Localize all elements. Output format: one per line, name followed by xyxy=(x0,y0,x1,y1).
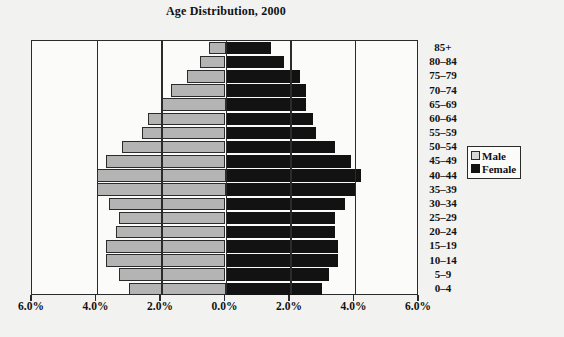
bar-rows xyxy=(32,41,417,294)
female-swatch-icon xyxy=(471,164,480,173)
bar-male-60-64 xyxy=(148,113,225,125)
bar-row xyxy=(32,69,417,83)
legend-label-male: Male xyxy=(482,150,506,162)
x-tick-label-5: 4.0% xyxy=(341,300,367,312)
gridline-pos0 xyxy=(226,41,228,294)
bar-female-40-44 xyxy=(226,169,361,181)
age-label-50-54: 50–54 xyxy=(420,139,466,153)
bar-female-20-24 xyxy=(226,226,336,238)
bar-female-60-64 xyxy=(226,113,313,125)
legend-item-male: Male xyxy=(471,149,516,162)
legend-item-female: Female xyxy=(471,162,516,175)
bar-female-0-4 xyxy=(226,283,323,295)
bar-male-10-14 xyxy=(106,254,225,266)
bar-male-75-79 xyxy=(187,70,226,82)
bar-female-30-34 xyxy=(226,198,345,210)
page-title: Age Distribution, 2000 xyxy=(0,4,452,19)
age-label-25-29: 25–29 xyxy=(420,210,466,224)
age-label-70-74: 70–74 xyxy=(420,83,466,97)
bar-row xyxy=(32,98,417,112)
age-label-40-44: 40–44 xyxy=(420,168,466,182)
age-label-60-64: 60–64 xyxy=(420,111,466,125)
bar-male-45-49 xyxy=(106,155,225,167)
bar-row xyxy=(32,183,417,197)
bar-male-70-74 xyxy=(171,84,226,96)
bar-row xyxy=(32,225,417,239)
bar-male-20-24 xyxy=(116,226,226,238)
age-label-65-69: 65–69 xyxy=(420,97,466,111)
age-label-45-49: 45–49 xyxy=(420,153,466,167)
bar-row xyxy=(32,169,417,183)
bar-row xyxy=(32,84,417,98)
bar-female-25-29 xyxy=(226,212,336,224)
bar-male-15-19 xyxy=(106,240,225,252)
bar-male-85+ xyxy=(209,42,225,54)
age-label-35-39: 35–39 xyxy=(420,182,466,196)
x-tick-label-0: 6.0% xyxy=(18,300,44,312)
x-tick-label-3: 0.0% xyxy=(212,300,238,312)
bar-male-30-34 xyxy=(109,198,225,210)
bar-female-50-54 xyxy=(226,141,336,153)
x-tick-label-2: 2.0% xyxy=(147,300,173,312)
age-label-20-24: 20–24 xyxy=(420,224,466,238)
bar-female-10-14 xyxy=(226,254,339,266)
age-label-0-4: 0–4 xyxy=(420,281,466,295)
bar-row xyxy=(32,254,417,268)
bar-row xyxy=(32,282,417,296)
bar-female-5-9 xyxy=(226,268,329,280)
male-swatch-icon xyxy=(471,151,480,160)
bar-row xyxy=(32,55,417,69)
bar-female-85+ xyxy=(226,42,271,54)
bar-male-25-29 xyxy=(119,212,225,224)
bar-row xyxy=(32,154,417,168)
bar-row xyxy=(32,140,417,154)
bar-male-55-59 xyxy=(142,127,226,139)
bar-female-15-19 xyxy=(226,240,339,252)
bar-male-5-9 xyxy=(119,268,225,280)
bar-male-50-54 xyxy=(122,141,225,153)
bar-male-0-4 xyxy=(129,283,226,295)
bar-male-80-84 xyxy=(200,56,226,68)
bar-female-75-79 xyxy=(226,70,300,82)
bar-row xyxy=(32,211,417,225)
age-label-80-84: 80–84 xyxy=(420,54,466,68)
bar-row xyxy=(32,112,417,126)
bar-female-80-84 xyxy=(226,56,284,68)
legend-label-female: Female xyxy=(482,163,516,175)
bar-male-65-69 xyxy=(161,98,226,110)
bar-female-70-74 xyxy=(226,84,307,96)
bar-row xyxy=(32,268,417,282)
bar-female-45-49 xyxy=(226,155,352,167)
age-label-30-34: 30–34 xyxy=(420,196,466,210)
plot-area xyxy=(31,40,418,295)
x-tick-label-6: 6.0% xyxy=(405,300,431,312)
gridline-pos4 xyxy=(355,41,357,294)
bar-row xyxy=(32,197,417,211)
gridline-pos2 xyxy=(290,41,292,294)
age-label-55-59: 55–59 xyxy=(420,125,466,139)
bar-row xyxy=(32,126,417,140)
age-label-5-9: 5–9 xyxy=(420,267,466,281)
bar-female-65-69 xyxy=(226,98,307,110)
age-label-85+: 85+ xyxy=(420,40,466,54)
bar-row xyxy=(32,239,417,253)
age-label-15-19: 15–19 xyxy=(420,238,466,252)
gridline-neg4 xyxy=(97,41,99,294)
chart-page: Age Distribution, 2000 6.0%4.0%2.0%0.0%2… xyxy=(0,0,564,337)
legend: Male Female xyxy=(467,146,521,179)
bar-row xyxy=(32,41,417,55)
gridline-neg2 xyxy=(161,41,163,294)
age-label-75-79: 75–79 xyxy=(420,68,466,82)
bar-female-55-59 xyxy=(226,127,316,139)
age-label-10-14: 10–14 xyxy=(420,253,466,267)
x-tick-label-1: 4.0% xyxy=(83,300,109,312)
x-tick-label-4: 2.0% xyxy=(276,300,302,312)
